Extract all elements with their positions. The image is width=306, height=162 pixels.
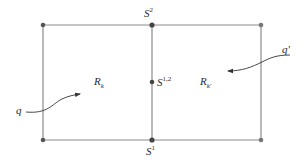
- rectangle-diagram: [0, 0, 306, 162]
- label-rk-base: R: [94, 75, 101, 87]
- label-s12-sup: 1,2: [163, 75, 172, 83]
- vertex-bottom-middle: [149, 137, 154, 142]
- label-rkp-sub: k': [207, 82, 212, 90]
- label-s2: S2: [144, 8, 153, 19]
- vertex-top-left: [41, 23, 46, 28]
- label-s12: S1,2: [157, 77, 171, 88]
- vertex-s12: [150, 80, 155, 85]
- arrow-q: [26, 94, 80, 112]
- vertex-top-right: [259, 23, 264, 28]
- vertex-top-middle: [149, 22, 154, 27]
- label-rkp-base: R: [200, 75, 207, 87]
- label-region-rk: Rk: [94, 76, 104, 87]
- vertex-bottom-left: [41, 138, 46, 143]
- label-s2-sup: 2: [150, 6, 154, 14]
- label-s1: S1: [146, 146, 155, 157]
- label-rk-sub: k: [101, 82, 104, 90]
- label-s1-sup: 1: [152, 144, 156, 152]
- label-q: q: [16, 105, 22, 116]
- label-region-rk-prime: Rk': [200, 76, 211, 87]
- arrow-q-prime: [228, 55, 290, 71]
- label-q-prime: q': [282, 44, 290, 55]
- vertex-bottom-right: [259, 138, 264, 143]
